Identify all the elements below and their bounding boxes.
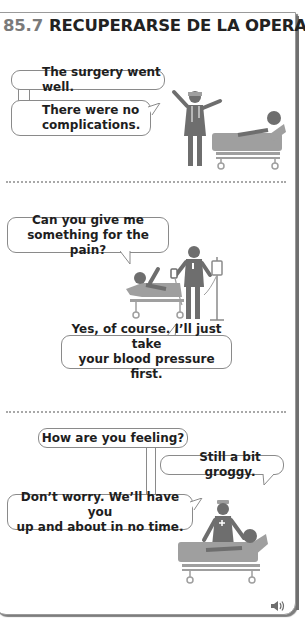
speech-bubble-how-are-you: How are you feeling? <box>38 428 188 448</box>
bubble-text: How are you feeling? <box>42 431 185 446</box>
bubble-text: The surgery went well. <box>42 65 164 95</box>
bubble-tail-icon <box>262 474 276 486</box>
bubble-text-line2: complications. <box>42 118 140 133</box>
section-divider <box>6 181 286 183</box>
bubble-text-line1: Yes, of course. I’ll just take <box>62 322 231 352</box>
bubble-connector <box>146 440 156 496</box>
section-divider <box>6 411 286 413</box>
bubble-tail-icon <box>148 103 162 117</box>
section-title-text: RECUPERARSE DE LA OPERACIÓN <box>49 16 305 35</box>
nurse-checking-patient-illustration <box>170 500 270 588</box>
bubble-text-line2: your blood pressure first. <box>62 352 231 382</box>
audio-speaker-button[interactable] <box>270 600 286 615</box>
bubble-text-line1: Don’t worry. We’ll have you <box>8 490 192 520</box>
speech-bubble-blood-pressure: Yes, of course. I’ll just take your bloo… <box>61 335 232 369</box>
speech-bubble-no-complications: There were no complications. <box>11 100 151 136</box>
bubble-text-line1: There were no <box>42 103 139 118</box>
panel-shadow <box>296 16 299 610</box>
speech-bubble-dont-worry: Don’t worry. We’ll have you up and about… <box>7 494 193 530</box>
nurse-with-iv-illustration <box>120 245 230 325</box>
speaker-icon <box>270 600 286 612</box>
bubble-text-line1: Can you give me <box>32 213 144 228</box>
section-number: 85.7 <box>3 16 43 35</box>
speech-bubble-groggy: Still a bit groggy. <box>160 455 284 475</box>
speech-bubble-surgery-went-well: The surgery went well. <box>11 70 165 90</box>
doctor-and-patient-illustration <box>168 88 288 172</box>
section-title: 85.7RECUPERARSE DE LA OPERACIÓN <box>3 16 305 35</box>
bubble-text-line2: up and about in no time. <box>17 520 184 535</box>
